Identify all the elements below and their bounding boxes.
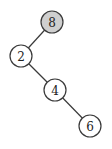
tree-diagram: 8246 [0,0,112,149]
node-label: 8 [48,16,56,30]
tree-node-8: 8 [41,11,63,33]
node-label: 2 [17,50,25,64]
tree-nodes: 8246 [10,11,101,137]
tree-node-2: 2 [10,45,32,67]
tree-edges [21,22,90,126]
node-label: 4 [51,84,59,98]
tree-node-6: 6 [79,115,101,137]
node-label: 6 [86,120,94,134]
tree-node-4: 4 [44,79,66,101]
